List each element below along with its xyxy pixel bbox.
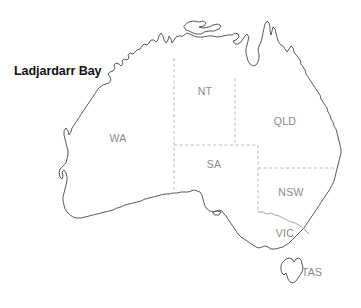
state-label-vic: VIC [276, 227, 294, 239]
map-canvas [0, 0, 361, 308]
mainland-outline-path [59, 21, 341, 249]
state-label-sa: SA [207, 158, 222, 170]
state-label-tas: TAS [302, 266, 323, 278]
tasmania-coastline-path [281, 258, 303, 283]
kangaroo-island-path [213, 211, 221, 215]
mainland-coastline-path [184, 21, 221, 34]
state-label-wa: WA [109, 132, 126, 144]
state-label-nsw: NSW [278, 186, 303, 198]
state-label-qld: QLD [274, 115, 297, 127]
place-label-ladjardarr-bay: Ladjardarr Bay [14, 64, 102, 78]
australia-map-figure: Ladjardarr Bay WA NT QLD SA NSW VIC TAS [0, 0, 361, 308]
state-label-nt: NT [198, 85, 213, 97]
